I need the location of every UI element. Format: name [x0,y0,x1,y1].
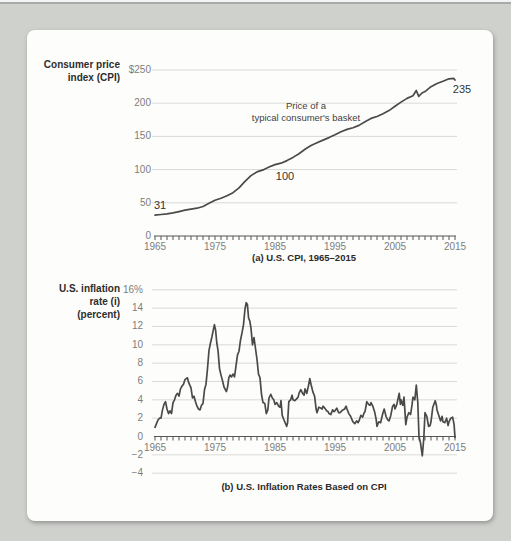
cpi-caption: (a) U.S. CPI, 1965–2015 [154,252,454,264]
us-inflation-ytick-label: 4 [99,394,143,406]
us-inflation-ytick-label: 16% [99,284,143,296]
us-inflation-ytick-label: 8 [99,357,143,369]
us-cpi-xtick-label: 1975 [197,241,233,253]
us-inflation-ytick-label: −4 [99,467,143,479]
us-inflation-series-line [155,303,455,456]
us-inflation-xtick-label: 2015 [437,442,473,454]
us-cpi-series-line [155,78,455,215]
us-cpi-ytick-label: 150 [107,130,151,142]
us-inflation-xtick-label: 1975 [197,442,233,454]
us-cpi-ytick-label: 50 [107,197,151,209]
us-cpi-ytick-label: 100 [107,164,151,176]
us-cpi-ytick-label: $250 [107,64,151,76]
cpi-annotation: Price of a typical consumer's basket [206,100,406,123]
us-cpi-xtick-label: 1995 [317,241,353,253]
cpi-point-label-235: 235 [446,83,478,95]
us-cpi-xtick-label: 2015 [437,241,473,253]
us-cpi-xtick-label: 1985 [257,241,293,253]
us-cpi-ytick-label: 200 [107,97,151,109]
us-inflation-ytick-label: 2 [99,412,143,424]
us-inflation-ytick-label: 14 [99,302,143,314]
us-inflation-ytick-label: 6 [99,375,143,387]
us-inflation-ytick-label: 0 [99,431,143,443]
us-inflation-xtick-label: 2005 [377,442,413,454]
inflation-caption: (b) U.S. Inflation Rates Based on CPI [154,481,454,493]
us-inflation-xtick-label: 1995 [317,442,353,454]
us-inflation-ytick-label: 12 [99,320,143,332]
us-inflation-ytick-label: 10 [99,339,143,351]
page: Consumer price index (CPI) Price of a ty… [0,0,511,541]
us-cpi-xtick-label: 2005 [377,241,413,253]
us-cpi-xtick-label: 1965 [137,241,173,253]
us-inflation-xtick-label: 1985 [257,442,293,454]
cpi-annotation-line1: Price of a [206,100,406,112]
cpi-point-label-100: 100 [270,170,300,182]
cpi-annotation-line2: typical consumer's basket [206,112,406,124]
us-inflation-xtick-label: 1965 [137,442,173,454]
